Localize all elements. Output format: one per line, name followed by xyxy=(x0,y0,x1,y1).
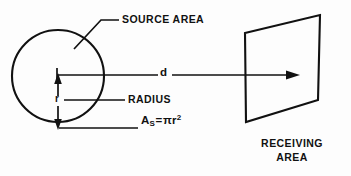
formula-exponent: 2 xyxy=(177,113,182,122)
radius-symbol-label: r xyxy=(55,93,59,104)
radius-label: RADIUS xyxy=(128,93,171,105)
formula-base: A xyxy=(141,114,150,126)
source-area-formula: AS=πr2 xyxy=(141,113,181,128)
receiving-area-label-line2: AREA xyxy=(249,151,335,165)
source-area-label: SOURCE AREA xyxy=(122,13,204,25)
receiving-area-label: RECEIVING AREA xyxy=(249,137,335,164)
formula-pi-symbol: π xyxy=(163,114,172,126)
distance-label: d xyxy=(160,66,167,78)
formula-subscript: S xyxy=(150,119,156,128)
receiving-area-plane xyxy=(245,15,320,122)
source-area-leader-line xyxy=(74,20,119,49)
distance-arrowhead xyxy=(286,71,300,80)
source-receiving-area-diagram: SOURCE AREA RADIUS d r AS=πr2 RECEIVING … xyxy=(0,0,351,176)
receiving-area-label-line1: RECEIVING xyxy=(249,137,335,151)
formula-equals: = xyxy=(156,114,163,126)
